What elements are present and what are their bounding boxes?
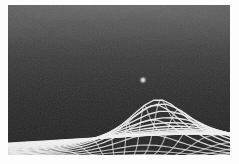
paper-margin-left — [0, 0, 8, 164]
central-mass-point — [139, 76, 147, 84]
grid-plot-area — [8, 5, 230, 155]
paper-margin-right — [230, 0, 239, 164]
gravity-well-figure — [0, 0, 239, 164]
spacetime-grid-svg — [8, 5, 230, 155]
paper-margin-bottom — [0, 155, 239, 164]
